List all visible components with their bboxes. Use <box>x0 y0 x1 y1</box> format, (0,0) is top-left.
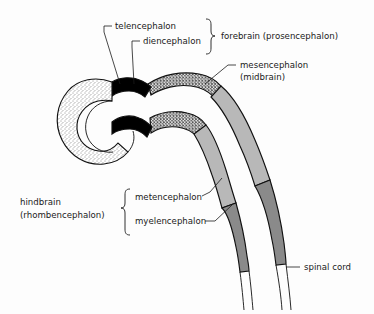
label-mesencephalon-line1: mesencephalon <box>240 60 308 70</box>
brace-forebrain <box>206 19 215 54</box>
region-diencephalon-near <box>112 116 152 137</box>
region-myelencephalon-far <box>255 180 286 265</box>
region-spinal-cord-far <box>286 264 291 310</box>
label-mesencephalon-line2: (midbrain) <box>240 72 285 82</box>
label-diencephalon: diencephalon <box>143 36 201 46</box>
label-hindbrain-line2: (rhombencephalon) <box>20 210 105 220</box>
region-diencephalon-far <box>112 78 151 97</box>
region-spinal-cord-near <box>249 271 253 310</box>
spinal-cord-far-edge <box>276 265 282 310</box>
label-hindbrain-line1: hindbrain <box>20 197 61 207</box>
label-spinal-cord: spinal cord <box>304 262 351 272</box>
telencephalon-near-connector <box>128 131 134 152</box>
brace-hindbrain <box>121 189 130 235</box>
region-mesencephalon-far <box>148 73 221 97</box>
leader-diencephalon <box>132 41 140 84</box>
label-forebrain: forebrain (prosencephalon) <box>221 31 338 41</box>
spinal-cord-near-edge <box>240 272 244 310</box>
label-myelencephalon: myelencephalon <box>135 216 206 226</box>
region-myelencephalon-near <box>222 203 249 272</box>
brain-development-diagram: telencephalon diencephalon forebrain (pr… <box>0 0 374 314</box>
leader-telencephalon <box>104 26 120 84</box>
label-metencephalon: metencephalon <box>135 192 202 202</box>
telencephalon-inner-edge <box>86 101 113 152</box>
label-telencephalon: telencephalon <box>115 21 176 31</box>
